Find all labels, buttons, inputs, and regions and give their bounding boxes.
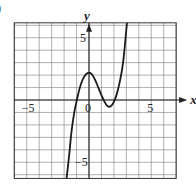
x-axis-label: x	[189, 92, 196, 107]
y-axis-label: y	[82, 8, 90, 23]
part-label: )	[0, 1, 1, 15]
y-tick-label: −5	[75, 155, 88, 169]
function-graph: ) x y −5055−5	[0, 0, 196, 187]
y-tick-label: 5	[80, 31, 86, 45]
x-tick-label: 5	[147, 101, 153, 115]
x-tick-label: 0	[85, 101, 91, 115]
x-tick-label: −5	[22, 101, 35, 115]
x-axis-arrow-icon	[179, 97, 187, 103]
